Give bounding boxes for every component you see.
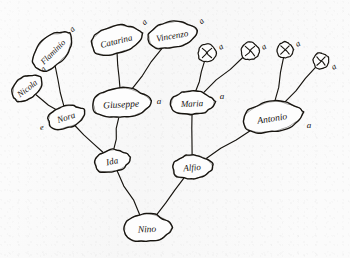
node-ida[interactable]: Ida	[95, 149, 131, 172]
annotation-ann-x1: a	[216, 41, 225, 52]
ink-speck	[207, 79, 208, 80]
node-x2-unknown-person[interactable]	[241, 42, 259, 60]
ink-speck	[45, 21, 47, 23]
annotation-ann-nora: e	[39, 122, 44, 132]
node-vincenzo[interactable]: Vincenzo	[148, 21, 197, 49]
node-nino[interactable]: Nino	[124, 213, 173, 241]
ink-speck	[200, 256, 201, 257]
annotation-ann-vincenzo: a	[196, 16, 206, 26]
annotation-ann-x3: a	[293, 38, 302, 49]
ink-speck	[99, 41, 100, 42]
ink-speck	[255, 120, 257, 122]
ink-speck	[284, 181, 286, 183]
edge-ida-nino	[117, 171, 140, 215]
node-nora[interactable]: Nora	[48, 105, 85, 130]
ink-speck	[189, 135, 191, 137]
edge-antonio-alfio	[207, 130, 251, 158]
edge-catarina-giuseppe	[117, 54, 120, 88]
edge-alfio-nino	[156, 178, 183, 215]
nodes-layer: NicolaFlaminioCatarinaVincenzoNoraGiusep…	[12, 21, 329, 242]
ink-speck	[207, 214, 209, 216]
annotation-ann-giuseppe: a	[157, 96, 162, 106]
node-maria[interactable]: Maria	[170, 90, 215, 114]
ink-speck	[89, 53, 91, 55]
ink-speck	[233, 116, 235, 118]
sketch-canvas: NicolaFlaminioCatarinaVincenzoNoraGiusep…	[0, 0, 350, 258]
annotation-ann-maria: a	[220, 91, 225, 101]
node-catarina[interactable]: Catarina	[91, 24, 142, 55]
node-label-nino: Nino	[137, 224, 157, 235]
annotation-ann-catarina: a	[139, 17, 149, 27]
ink-speck	[258, 6, 259, 7]
ink-speck	[241, 3, 242, 4]
edge-nora-ida	[75, 125, 104, 152]
node-x3-unknown-person[interactable]	[277, 41, 294, 58]
ink-speck	[48, 84, 49, 85]
ink-speck	[10, 8, 11, 9]
node-label-maria: Maria	[180, 98, 204, 109]
annotation-ann-x2: a	[259, 41, 268, 52]
node-label-giuseppe: Giuseppe	[103, 99, 139, 111]
node-x1-unknown-person[interactable]	[198, 44, 216, 62]
node-giuseppe[interactable]: Giuseppe	[93, 87, 152, 117]
edge-nicola-nora	[36, 95, 56, 110]
edge-x4-antonio	[285, 67, 316, 102]
ink-speck	[253, 84, 254, 85]
ink-speck	[156, 237, 158, 239]
ink-speck	[246, 60, 247, 61]
node-nicola[interactable]: Nicola	[12, 75, 42, 102]
node-x4-unknown-person[interactable]	[313, 53, 329, 69]
ink-speck	[277, 137, 279, 139]
ink-speck	[73, 182, 74, 183]
ink-speck	[272, 10, 274, 12]
node-antonio[interactable]: Antonio	[243, 101, 303, 134]
ink-speck	[297, 180, 298, 181]
ink-speck	[240, 216, 241, 217]
ink-speck	[91, 199, 92, 200]
annotation-ann-x4: a	[329, 61, 338, 72]
edge-x2-maria	[204, 57, 243, 92]
node-label-alfio: Alfio	[182, 162, 202, 173]
edge-flaminio-nora	[55, 66, 64, 106]
ink-speck	[93, 91, 95, 93]
edge-x1-maria	[196, 62, 205, 91]
annotation-ann-antonio: a	[307, 120, 312, 130]
edge-giuseppe-ida	[114, 118, 119, 150]
ink-speck	[223, 215, 225, 217]
ink-speck	[312, 136, 313, 137]
edge-x3-antonio	[275, 58, 284, 102]
edge-vincenzo-giuseppe	[132, 48, 162, 89]
family-tree-graph: NicolaFlaminioCatarinaVincenzoNoraGiusep…	[0, 0, 350, 258]
